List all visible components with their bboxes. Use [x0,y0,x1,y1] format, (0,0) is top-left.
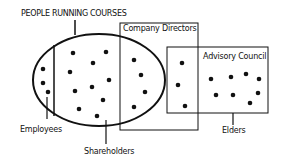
elders-label: Elders [222,127,246,135]
shareholder-dots [68,50,112,119]
shareholders-label: Shareholders [84,148,134,156]
elder-dots [209,72,262,106]
director-dots [132,58,148,110]
venn-diagram: PEOPLE RUNNING COURSES Company Directors… [0,0,285,167]
diagram-title: PEOPLE RUNNING COURSES [21,10,126,18]
employee-dots [41,67,51,95]
director-advisory-dots [176,61,188,109]
advisory-council-label: Advisory Council [203,53,266,61]
people-running-courses-ellipse [33,34,165,126]
employees-label: Employees [20,126,62,134]
company-directors-label: Company Directors [123,25,197,33]
